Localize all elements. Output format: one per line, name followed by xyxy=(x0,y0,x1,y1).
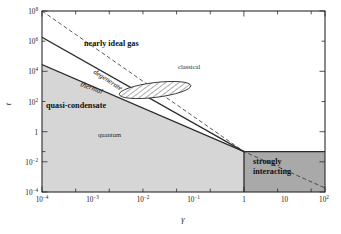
svg-text:10−1: 10−1 xyxy=(187,194,200,204)
phase-diagram-canvas: 10−4 10−3 10−2 10−1 1 10 102 1 xyxy=(0,0,341,234)
y-axis-title: t xyxy=(4,102,13,105)
x-axis-title: γ xyxy=(181,215,185,224)
annotation-quasi-condensate: quasi-condensate xyxy=(46,101,106,110)
phase-diagram-figure: 10−4 10−3 10−2 10−1 1 10 102 1 xyxy=(0,0,341,234)
svg-text:106: 106 xyxy=(28,36,38,46)
svg-text:102: 102 xyxy=(319,194,329,204)
x-tick-exponent: 2 xyxy=(326,194,329,200)
annotation-classical: classical xyxy=(178,63,201,70)
svg-text:102: 102 xyxy=(28,97,38,107)
x-tick-labels: 10−4 10−3 10−2 10−1 1 10 102 xyxy=(36,194,330,204)
annotation-strongly-interacting-line1: strongly xyxy=(253,157,282,166)
svg-text:10: 10 xyxy=(281,196,289,204)
y-tick-exponent: 2 xyxy=(35,97,38,103)
y-tick-labels: 108 106 104 102 1 10−2 10−4 xyxy=(25,6,38,197)
annotation-strongly-interacting-line2: interacting xyxy=(253,167,292,176)
y-tick-label: 1 xyxy=(34,129,38,137)
annotation-nearly-ideal-gas: nearly ideal gas xyxy=(84,39,139,48)
x-tick-exponent: −2 xyxy=(144,194,150,200)
svg-text:10−2: 10−2 xyxy=(137,194,150,204)
x-tick-label: 10 xyxy=(281,196,289,204)
x-tick-exponent: −3 xyxy=(93,194,99,200)
annotation-quantum: quantum xyxy=(98,131,122,138)
y-tick-exponent: −4 xyxy=(32,187,38,193)
x-tick-exponent: −1 xyxy=(194,194,200,200)
svg-text:104: 104 xyxy=(28,66,38,76)
svg-text:1: 1 xyxy=(34,129,38,137)
x-tick-exponent: −4 xyxy=(43,194,49,200)
svg-text:1: 1 xyxy=(242,196,246,204)
y-tick-exponent: 4 xyxy=(35,66,38,72)
x-tick-label: 1 xyxy=(242,196,246,204)
y-tick-exponent: 6 xyxy=(35,36,38,42)
svg-text:10−2: 10−2 xyxy=(25,157,38,167)
svg-text:10−4: 10−4 xyxy=(36,194,49,204)
svg-text:10−3: 10−3 xyxy=(86,194,99,204)
y-tick-exponent: 8 xyxy=(35,6,38,12)
svg-text:108: 108 xyxy=(28,6,38,16)
y-tick-exponent: −2 xyxy=(32,157,38,163)
